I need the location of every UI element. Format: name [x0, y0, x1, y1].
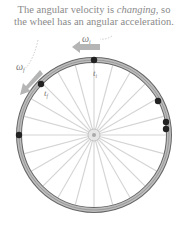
leader-line [100, 36, 112, 39]
t-f-subscript: f [47, 93, 50, 99]
t-i-subscript: i [96, 73, 98, 79]
wheel-diagram: ωi ωf ti tf [0, 0, 188, 227]
svg-text:ωf: ωf [16, 61, 26, 73]
hub-center [92, 133, 96, 137]
svg-text:ωi: ωi [82, 33, 91, 45]
dot-final [38, 81, 44, 87]
omega-i-label: ω [82, 33, 89, 44]
omega-f-subscript: f [23, 67, 26, 73]
dot-initial [91, 57, 97, 63]
omega-f-label: ω [16, 61, 23, 72]
leader-line [26, 40, 38, 68]
labels: ωi ωf ti tf [16, 33, 98, 99]
svg-text:ti: ti [93, 68, 98, 79]
